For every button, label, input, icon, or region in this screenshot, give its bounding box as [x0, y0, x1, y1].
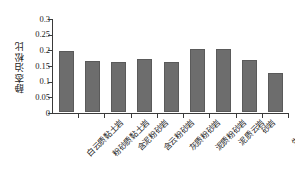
bar — [268, 73, 283, 112]
x-axis-tick-labels: 白云质黏土岩粉砂质黏土岩含泥粉砂岩含云粉砂岩灰质粉砂岩泥质粉砂岩泥质云岩砂岩生物… — [0, 118, 295, 181]
y-axis-tick — [48, 97, 52, 98]
y-axis-spine — [52, 19, 53, 114]
bar — [111, 62, 126, 112]
bar — [59, 51, 74, 112]
y-axis-tick — [48, 66, 52, 67]
bar — [216, 49, 231, 112]
bar — [164, 62, 179, 112]
bar — [137, 59, 152, 112]
bar — [85, 61, 100, 112]
bar — [242, 60, 257, 112]
bar-chart-figure: 静态泊松比 00.050.10.150.20.250.3 白云质黏土岩粉砂质黏土… — [0, 0, 295, 181]
plot-area — [52, 19, 288, 113]
y-axis-tick — [48, 50, 52, 51]
bar — [190, 49, 205, 112]
y-axis-tick-labels: 00.050.10.150.20.250.3 — [26, 14, 50, 118]
y-axis-tick — [48, 35, 52, 36]
x-axis-tick-label: 生物灰岩 — [290, 118, 295, 147]
y-axis-title-text: 静态泊松比 — [16, 41, 26, 93]
y-axis-tick — [48, 19, 52, 20]
x-axis-spine — [52, 113, 289, 114]
y-axis-tick — [48, 113, 52, 114]
y-axis-tick — [48, 82, 52, 83]
